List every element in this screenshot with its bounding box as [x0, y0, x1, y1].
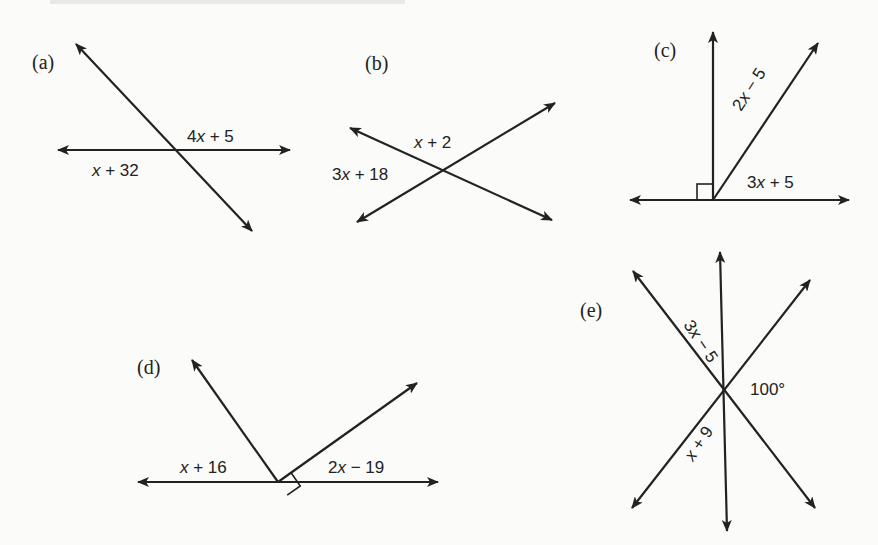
- panel-e: (e)3x − 5100°x + 9: [580, 252, 815, 531]
- panel-label: (c): [654, 39, 676, 62]
- panel-a: (a)4x + 5x + 32: [32, 44, 290, 231]
- panel-label: (a): [32, 51, 54, 74]
- angle-label-lower-right: 3x + 5: [747, 173, 794, 192]
- panel-c: (c)2x − 53x + 5: [630, 32, 849, 200]
- panel-label: (e): [580, 299, 602, 322]
- panel-b: (b)x + 23x + 18: [332, 52, 555, 222]
- panel-d: (d)x + 162x − 19: [137, 356, 438, 495]
- diagram-page: (a)4x + 5x + 32(b)x + 23x + 18(c)2x − 53…: [0, 0, 878, 545]
- angle-label-upper-right: 4x + 5: [187, 127, 234, 146]
- angle-label-between-rays: 2x − 5: [728, 65, 769, 115]
- angle-label-left: x + 16: [179, 458, 227, 477]
- angle-label-right: 2x − 19: [328, 458, 384, 477]
- angle-label-lower-left: x + 32: [91, 161, 139, 180]
- right-angle-marker: [697, 184, 713, 200]
- angle-label-right: 100°: [750, 380, 785, 399]
- right-angle-marker: [287, 473, 300, 495]
- panel-label: (b): [365, 52, 388, 75]
- panel-label: (d): [137, 356, 160, 379]
- angles-figure: (a)4x + 5x + 32(b)x + 23x + 18(c)2x − 53…: [0, 0, 878, 545]
- line-ascending: [357, 103, 555, 222]
- angle-label-left: 3x + 18: [332, 165, 388, 184]
- angle-label-lower-left: x + 9: [680, 423, 717, 465]
- angle-label-top: x + 2: [413, 133, 451, 152]
